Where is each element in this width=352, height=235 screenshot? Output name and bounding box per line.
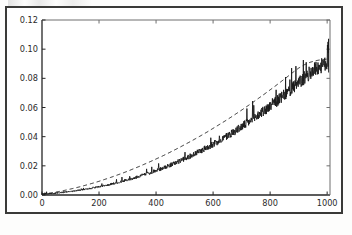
y-tick-label: 0.02 [20, 161, 38, 171]
y-tick-label: 0.08 [20, 73, 38, 83]
x-tick-label: 800 [262, 198, 278, 208]
x-axis-tick-labels: 02004006008001000 [39, 198, 337, 208]
y-tick-label: 0.04 [20, 132, 38, 142]
x-tick-label: 400 [148, 198, 164, 208]
plot-background [42, 20, 330, 195]
y-tick-label: 0.00 [20, 190, 38, 200]
x-tick-label: 1000 [317, 198, 338, 208]
y-tick-label: 0.12 [20, 15, 38, 25]
y-tick-label: 0.10 [20, 44, 38, 54]
y-tick-label: 0.06 [20, 103, 38, 113]
y-axis-tick-labels: 0.000.020.040.060.080.100.12 [20, 15, 38, 200]
figure-canvas: 02004006008001000 0.000.020.040.060.080.… [0, 0, 352, 235]
x-tick-label: 600 [205, 198, 221, 208]
chart-plot: 02004006008001000 0.000.020.040.060.080.… [0, 0, 352, 235]
x-tick-label: 0 [39, 198, 44, 208]
x-tick-label: 200 [91, 198, 107, 208]
